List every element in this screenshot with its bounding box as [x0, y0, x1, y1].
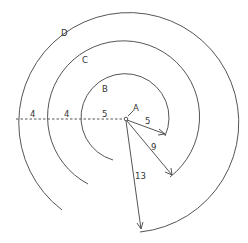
label-d: D	[61, 28, 68, 38]
spiral-diagram: A B C D 5 4 4 5 9 13	[0, 0, 248, 243]
curve-d	[19, 13, 239, 232]
segment-label-d: 4	[30, 109, 35, 119]
segment-label-c: 4	[64, 109, 69, 119]
radius-arrow-c	[127, 121, 172, 175]
label-c: C	[82, 55, 88, 65]
label-b: B	[102, 84, 108, 94]
radius-label-b: 5	[145, 116, 150, 126]
radius-label-d: 13	[135, 171, 146, 181]
radius-label-c: 9	[151, 142, 156, 152]
segment-label-b: 5	[102, 109, 107, 119]
diagram-canvas: A B C D 5 4 4 5 9 13	[0, 0, 248, 243]
label-a: A	[133, 103, 139, 113]
curve-c	[48, 41, 200, 184]
